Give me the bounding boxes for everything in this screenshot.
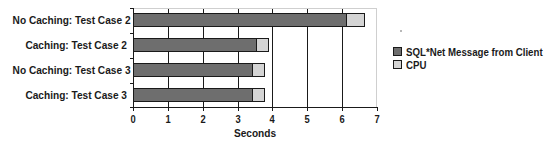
x-tick [238,107,239,111]
legend-marker-dot [400,30,402,32]
category-label-2: No Caching: Test Case 3 [13,63,127,77]
x-tick [377,107,378,111]
legend: SQL*Net Message from Client CPU [393,45,548,71]
x-tick-label: 0 [125,113,142,125]
bar-segment-cpu [253,63,265,77]
x-tick-label: 7 [369,113,386,125]
category-label-3: Caching: Test Case 3 [13,88,127,102]
y-tick [130,33,134,34]
bar-segment-sqlnet [133,63,253,77]
x-tick [307,107,308,111]
legend-label: CPU [406,59,426,71]
x-tick [272,107,273,111]
x-tick [133,107,134,111]
y-tick [130,8,134,9]
bar-segment-cpu [253,88,265,102]
legend-item-sqlnet: SQL*Net Message from Client [393,45,548,58]
bar-segment-cpu [347,13,365,27]
y-tick [130,58,134,59]
bar-segment-sqlnet [133,88,253,102]
x-axis-title: Seconds [229,127,282,139]
bar-0 [133,13,365,27]
legend-swatch-light-icon [393,60,402,69]
legend-label: SQL*Net Message from Client [406,46,543,58]
bar-3 [133,88,265,102]
bar-segment-sqlnet [133,38,257,52]
x-tick [168,107,169,111]
bar-1 [133,38,269,52]
x-tick [342,107,343,111]
x-tick-label: 6 [334,113,351,125]
x-tick-label: 4 [264,113,281,125]
x-tick-label: 1 [160,113,177,125]
legend-item-cpu: CPU [393,58,548,71]
bar-2 [133,63,265,77]
y-tick [130,83,134,84]
x-tick-label: 2 [195,113,212,125]
x-tick-label: 3 [230,113,247,125]
category-label-1: Caching: Test Case 2 [13,38,127,52]
x-tick [203,107,204,111]
category-label-0: No Caching: Test Case 2 [13,13,127,27]
bar-segment-cpu [257,38,269,52]
legend-swatch-dark-icon [393,47,402,56]
x-tick-label: 5 [299,113,316,125]
bar-segment-sqlnet [133,13,347,27]
